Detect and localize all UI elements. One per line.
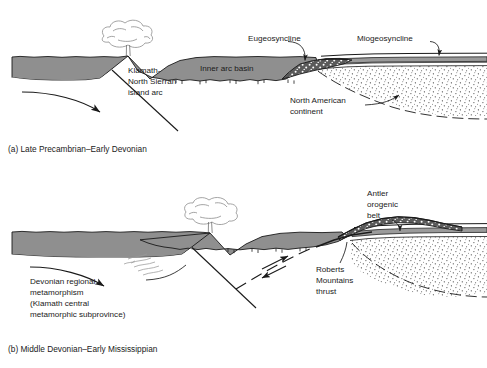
geologic-figure: Eugeosyncline Miogeosyncline Inner arc b… — [0, 0, 487, 368]
label-antler-orogenic-belt: Antler orogenic belt — [367, 189, 398, 220]
subduction-slab-b — [192, 248, 256, 309]
label-miogeosyncline: Miogeosyncline — [357, 34, 413, 43]
svg-text:Devonian regional: Devonian regional — [30, 277, 95, 286]
arc-crust-layer-b — [12, 231, 346, 257]
roberts-leader-b — [340, 242, 347, 263]
miogeosyncline-strata-b — [352, 228, 487, 237]
svg-text:(Klamath central: (Klamath central — [30, 299, 89, 308]
svg-text:Antler: Antler — [367, 189, 388, 198]
svg-text:Roberts: Roberts — [316, 265, 344, 274]
label-devonian-metamorphism: Devonian regional metamorphism (Klamath … — [30, 277, 126, 319]
svg-text:Klamath-: Klamath- — [128, 66, 161, 75]
svg-text:North American: North American — [290, 96, 346, 105]
svg-text:thrust: thrust — [316, 287, 337, 296]
svg-text:Mountains: Mountains — [316, 276, 353, 285]
label-inner-arc-basin: Inner arc basin — [200, 64, 254, 73]
continent-body-a — [316, 66, 487, 116]
volcano-plume-a — [102, 20, 152, 47]
svg-text:belt: belt — [367, 211, 381, 220]
roberts-thrust-dashed — [236, 248, 312, 289]
svg-text:metamorphic subprovince): metamorphic subprovince) — [30, 310, 126, 319]
volcano-conduit-a — [126, 45, 130, 56]
panel-a: Eugeosyncline Miogeosyncline Inner arc b… — [8, 20, 487, 154]
svg-text:island arc: island arc — [128, 88, 163, 97]
svg-text:continent: continent — [290, 107, 324, 116]
panel-b: Antler orogenic belt Roberts Mountains t… — [8, 189, 487, 354]
label-eugeosyncline: Eugeosyncline — [248, 34, 301, 43]
caption-panel-a: (a) Late Precambrian–Early Devonian — [8, 144, 147, 154]
caption-panel-b: (b) Middle Devonian–Early Mississippian — [8, 344, 158, 354]
volcano-plume-b — [185, 197, 238, 224]
thrust-sense-arrows — [262, 256, 288, 278]
svg-text:orogenic: orogenic — [367, 200, 398, 209]
label-roberts-mountains-thrust: Roberts Mountains thrust — [316, 265, 353, 296]
subduction-arrow-a — [22, 92, 100, 112]
label-north-american-continent: North American continent — [290, 96, 346, 116]
continent-body-b — [350, 237, 487, 298]
svg-text:metamorphism: metamorphism — [30, 288, 84, 297]
strata-top-line-a — [321, 53, 487, 56]
svg-text:North Sierran: North Sierran — [128, 77, 176, 86]
